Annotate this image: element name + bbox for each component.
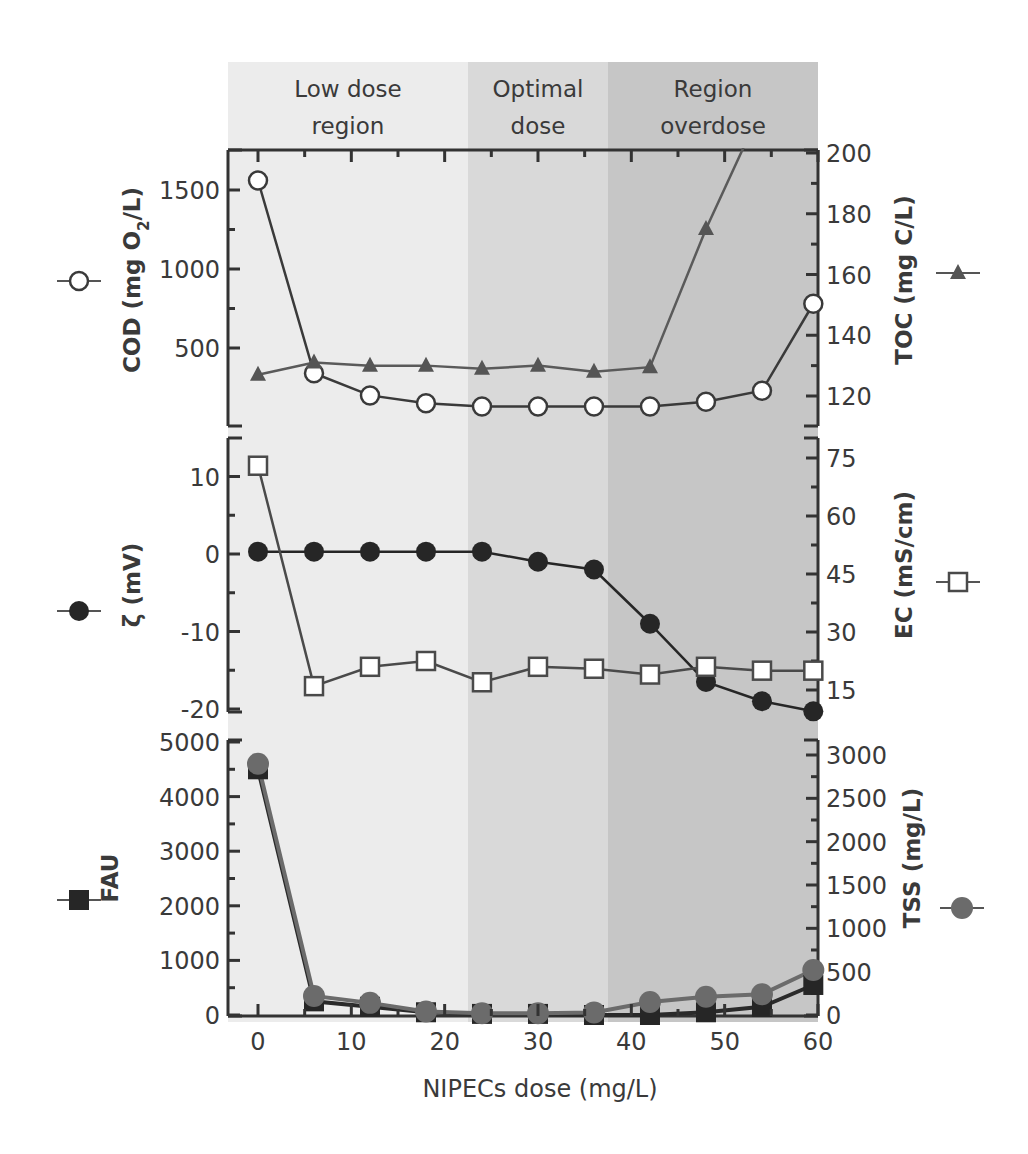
open-square-marker [249, 457, 267, 475]
filled-circle-marker [803, 701, 823, 721]
left-axis-title: ζ (mV) [119, 543, 145, 627]
gray-circle-marker [471, 1002, 493, 1024]
right-tick-label: 500 [826, 959, 872, 987]
filled-circle-marker [248, 542, 268, 562]
right-tick-label: 3000 [826, 742, 887, 770]
right-tick-label: 15 [826, 677, 857, 705]
gray-circle-marker [751, 983, 773, 1005]
open-circle-marker [753, 382, 771, 400]
right-tick-label: 60 [826, 503, 857, 531]
gray-circle-marker [583, 1001, 605, 1023]
open-square-marker [641, 666, 659, 684]
left-tick-label: 0 [205, 1002, 220, 1030]
right-tick-label: 120 [826, 383, 872, 411]
open-square-marker [804, 662, 822, 680]
open-square-marker [473, 673, 491, 691]
right-tick-label: 1500 [826, 872, 887, 900]
right-axis-title: EC (mS/cm) [891, 491, 917, 639]
left-tick-label: -20 [181, 696, 220, 724]
open-circle-marker [529, 397, 547, 415]
filled-circle-marker [640, 614, 660, 634]
right-tick-label: 2500 [826, 785, 887, 813]
open-circle-marker [641, 397, 659, 415]
left-tick-label: 0 [205, 541, 220, 569]
open-circle-marker [473, 397, 491, 415]
gray-circle-marker [639, 991, 661, 1013]
region-band [468, 62, 608, 1022]
filled-square-marker [69, 890, 89, 910]
open-square-marker [697, 658, 715, 676]
x-tick-label: 60 [803, 1028, 834, 1056]
left-tick-label: 2000 [159, 893, 220, 921]
open-circle-marker [804, 295, 822, 313]
open-square-marker [529, 658, 547, 676]
filled-circle-marker [416, 542, 436, 562]
filled-circle-marker [304, 542, 324, 562]
region-label-line2: overdose [660, 113, 766, 139]
right-tick-label: 180 [826, 201, 872, 229]
right-tick-label: 160 [826, 262, 872, 290]
gray-circle-marker [303, 985, 325, 1007]
open-circle-marker [249, 172, 267, 190]
right-tick-label: 0 [826, 1002, 841, 1030]
open-circle-marker [417, 394, 435, 412]
right-tick-label: 30 [826, 619, 857, 647]
region-label-line2: dose [511, 113, 566, 139]
gray-circle-marker [415, 1001, 437, 1023]
filled-circle-marker [528, 552, 548, 572]
gray-circle-marker [951, 897, 973, 919]
right-tick-label: 200 [826, 140, 872, 168]
open-square-marker [305, 677, 323, 695]
gray-circle-marker [695, 986, 717, 1008]
open-circle-marker [361, 386, 379, 404]
right-tick-label: 45 [826, 561, 857, 589]
open-circle-marker [585, 397, 603, 415]
left-tick-label: 4000 [159, 784, 220, 812]
left-tick-label: 3000 [159, 838, 220, 866]
region-band [608, 62, 818, 1022]
right-axis-title: TOC (mg C/L) [891, 195, 917, 365]
region-label-line1: Optimal [492, 76, 583, 102]
right-axis-title: TSS (mg/L) [899, 788, 925, 928]
left-tick-label: 1000 [159, 256, 220, 284]
left-tick-label: 1000 [159, 947, 220, 975]
region-label-line1: Region [674, 76, 753, 102]
region-label-line1: Low dose [294, 76, 401, 102]
x-axis-title: NIPECs dose (mg/L) [422, 1075, 657, 1103]
open-square-marker [949, 573, 967, 591]
open-square-marker [585, 660, 603, 678]
left-tick-label: 1500 [159, 177, 220, 205]
left-tick-label: -10 [181, 619, 220, 647]
x-tick-label: 20 [429, 1028, 460, 1056]
gray-circle-marker [802, 959, 824, 981]
x-tick-label: 10 [336, 1028, 367, 1056]
right-tick-label: 2000 [826, 829, 887, 857]
filled-circle-marker [472, 542, 492, 562]
x-tick-label: 50 [709, 1028, 740, 1056]
triangle-marker [950, 264, 966, 279]
left-tick-label: 500 [174, 335, 220, 363]
right-tick-label: 75 [826, 445, 857, 473]
filled-circle-marker [752, 691, 772, 711]
open-square-marker [417, 652, 435, 670]
left-axis-title: COD (mg O2/L) [119, 187, 153, 373]
chart-svg: Low doseregionOptimaldoseRegionoverdose … [0, 0, 1028, 1154]
left-tick-label: 5000 [159, 729, 220, 757]
filled-circle-marker [584, 560, 604, 580]
region-label-line2: region [312, 113, 385, 139]
right-tick-label: 140 [826, 322, 872, 350]
gray-circle-marker [359, 992, 381, 1014]
open-square-marker [753, 662, 771, 680]
filled-circle-marker [360, 542, 380, 562]
x-tick-label: 30 [523, 1028, 554, 1056]
region-band [228, 62, 468, 1022]
left-tick-label: 10 [189, 464, 220, 492]
right-tick-label: 1000 [826, 915, 887, 943]
x-tick-label: 0 [250, 1028, 265, 1056]
gray-circle-marker [247, 753, 269, 775]
open-circle-marker [70, 272, 88, 290]
open-circle-marker [697, 393, 715, 411]
open-square-marker [361, 658, 379, 676]
left-axis-title: FAU [97, 854, 123, 903]
x-tick-label: 40 [616, 1028, 647, 1056]
